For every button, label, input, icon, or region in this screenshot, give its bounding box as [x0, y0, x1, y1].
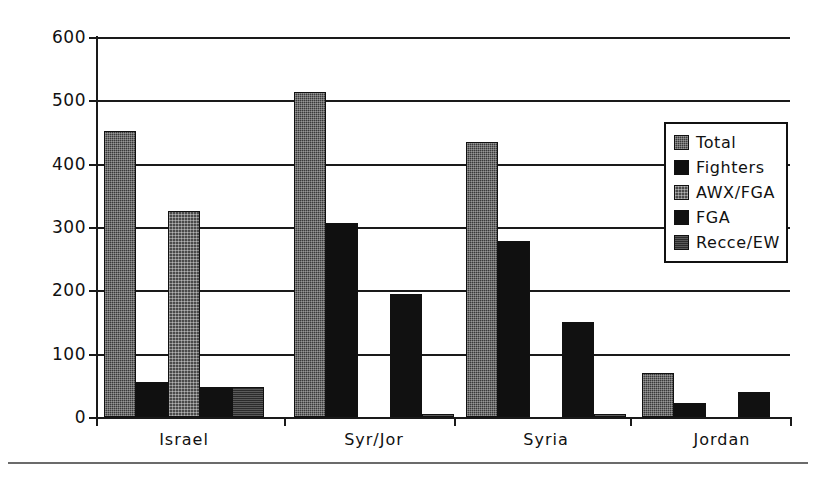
y-axis-tick: [89, 164, 96, 166]
legend-item-label: Recce/EW: [696, 233, 780, 252]
bar: [738, 392, 770, 417]
bar: [642, 373, 674, 417]
legend-item-label: FGA: [696, 208, 730, 227]
legend-item: Recce/EW: [674, 230, 780, 255]
y-axis-tick: [89, 290, 96, 292]
legend-swatch-icon: [674, 235, 689, 250]
y-axis-tick-label: 100: [52, 344, 86, 364]
legend-item: FGA: [674, 205, 780, 230]
legend-swatch-icon: [674, 185, 689, 200]
chart-legend: TotalFightersAWX/FGAFGARecce/EW: [664, 122, 788, 263]
bar: [390, 294, 422, 418]
x-axis-tick: [630, 417, 632, 426]
bar: [562, 322, 594, 417]
x-axis-category-label: Syr/Jor: [344, 430, 404, 449]
x-axis-tick: [96, 417, 98, 426]
x-axis-tick: [454, 417, 456, 426]
bar: [294, 92, 326, 417]
legend-item-label: Fighters: [696, 158, 765, 177]
bar: [232, 387, 264, 417]
bar: [326, 223, 358, 417]
bar: [422, 414, 454, 417]
legend-item: AWX/FGA: [674, 180, 780, 205]
y-axis-tick: [89, 354, 96, 356]
bar: [168, 211, 200, 417]
x-axis-category-label: Syria: [523, 430, 568, 449]
y-axis-tick-label: 200: [52, 280, 86, 300]
x-axis-tick: [790, 417, 792, 426]
bar: [104, 131, 136, 417]
bar: [466, 142, 498, 418]
bar: [136, 382, 168, 417]
legend-item-label: AWX/FGA: [696, 183, 775, 202]
y-axis-tick-label: 400: [52, 154, 86, 174]
page-divider-rule: [8, 462, 808, 464]
y-axis-tick-label: 500: [52, 90, 86, 110]
legend-swatch-icon: [674, 160, 689, 175]
legend-swatch-icon: [674, 135, 689, 150]
y-axis-tick: [89, 227, 96, 229]
legend-item: Fighters: [674, 155, 780, 180]
legend-item-label: Total: [696, 133, 736, 152]
x-axis-category-label: Israel: [159, 430, 209, 449]
legend-swatch-icon: [674, 210, 689, 225]
y-axis-tick: [89, 417, 96, 419]
y-axis-tick-label: 0: [75, 407, 86, 427]
bar: [674, 403, 706, 417]
y-axis-tick-label: 600: [52, 27, 86, 47]
y-axis-tick: [89, 37, 96, 39]
gridline: [96, 417, 790, 419]
bar-chart-figure: 0100200300400500600 IsraelSyr/JorSyriaJo…: [0, 0, 816, 481]
x-axis-category-label: Jordan: [694, 430, 751, 449]
legend-item: Total: [674, 130, 780, 155]
bar: [594, 414, 626, 417]
y-axis-tick: [89, 100, 96, 102]
bar: [200, 387, 232, 417]
y-axis-tick-label: 300: [52, 217, 86, 237]
x-axis-tick: [284, 417, 286, 426]
bar: [498, 241, 530, 417]
